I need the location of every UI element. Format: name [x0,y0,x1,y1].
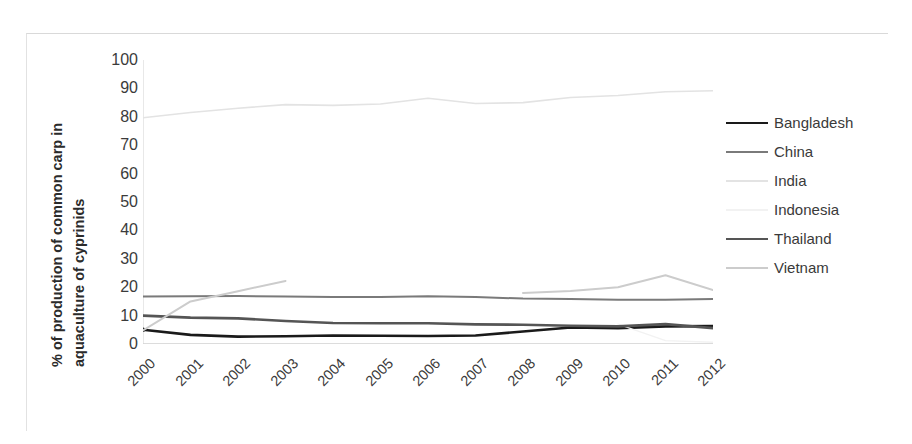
legend-label: Bangladesh [770,114,853,131]
y-tick-label: 0 [96,336,138,352]
chart-legend: BangladeshChinaIndiaIndonesiaThailandVie… [724,108,894,282]
series-canvas [143,60,713,344]
x-tick-label: 2006 [397,355,444,402]
y-tick-label: 20 [96,279,138,295]
x-tick-label: 2008 [492,355,539,402]
legend-item-indonesia[interactable]: Indonesia [724,195,894,224]
x-tick-label: 2003 [254,355,301,402]
y-tick-label: 50 [96,194,138,210]
series-line-china [143,296,713,300]
series-line-vietnam [523,275,713,293]
legend-swatch-icon [724,233,770,245]
x-tick-label: 2002 [207,355,254,402]
legend-item-vietnam[interactable]: Vietnam [724,253,894,282]
plot-area [143,60,713,344]
legend-swatch-icon [724,262,770,274]
chart-figure: % of production of common carp in aquacu… [0,0,912,444]
y-tick-label: 30 [96,251,138,267]
legend-label: Thailand [770,230,832,247]
x-tick-label: 2001 [159,355,206,402]
legend-item-india[interactable]: India [724,166,894,195]
series-line-thailand [143,316,713,329]
legend-swatch-icon [724,204,770,216]
y-axis-title-line1: % of production of common carp in [48,123,66,367]
x-tick-label: 2004 [302,355,349,402]
y-tick-label: 70 [96,137,138,153]
x-tick-label: 2007 [444,355,491,402]
legend-label: China [770,143,813,160]
y-tick-label: 90 [96,80,138,96]
x-tick-label: 2005 [349,355,396,402]
y-tick-label: 60 [96,166,138,182]
y-tick-label: 80 [96,109,138,125]
legend-item-thailand[interactable]: Thailand [724,224,894,253]
x-tick-label: 2011 [634,355,681,402]
legend-label: India [770,172,807,189]
legend-label: Vietnam [770,259,829,276]
legend-swatch-icon [724,117,770,129]
x-tick-label: 2010 [587,355,634,402]
legend-swatch-icon [724,146,770,158]
x-tick-label: 2012 [682,355,729,402]
legend-swatch-icon [724,175,770,187]
series-line-vietnam [143,281,286,330]
legend-label: Indonesia [770,201,839,218]
y-tick-label: 100 [96,52,138,68]
legend-item-bangladesh[interactable]: Bangladesh [724,108,894,137]
series-line-india [143,91,713,118]
legend-item-china[interactable]: China [724,137,894,166]
y-tick-label: 40 [96,222,138,238]
y-tick-label: 10 [96,308,138,324]
y-axis-title: % of production of common carp in aquacu… [30,45,102,375]
y-axis-tick-labels: 0102030405060708090100 [96,48,138,358]
x-axis-tick-labels: 2000200120022003200420052006200720082009… [143,349,723,409]
y-axis-title-line2: aquaculture of cyprinids [70,199,88,367]
x-tick-label: 2009 [539,355,586,402]
